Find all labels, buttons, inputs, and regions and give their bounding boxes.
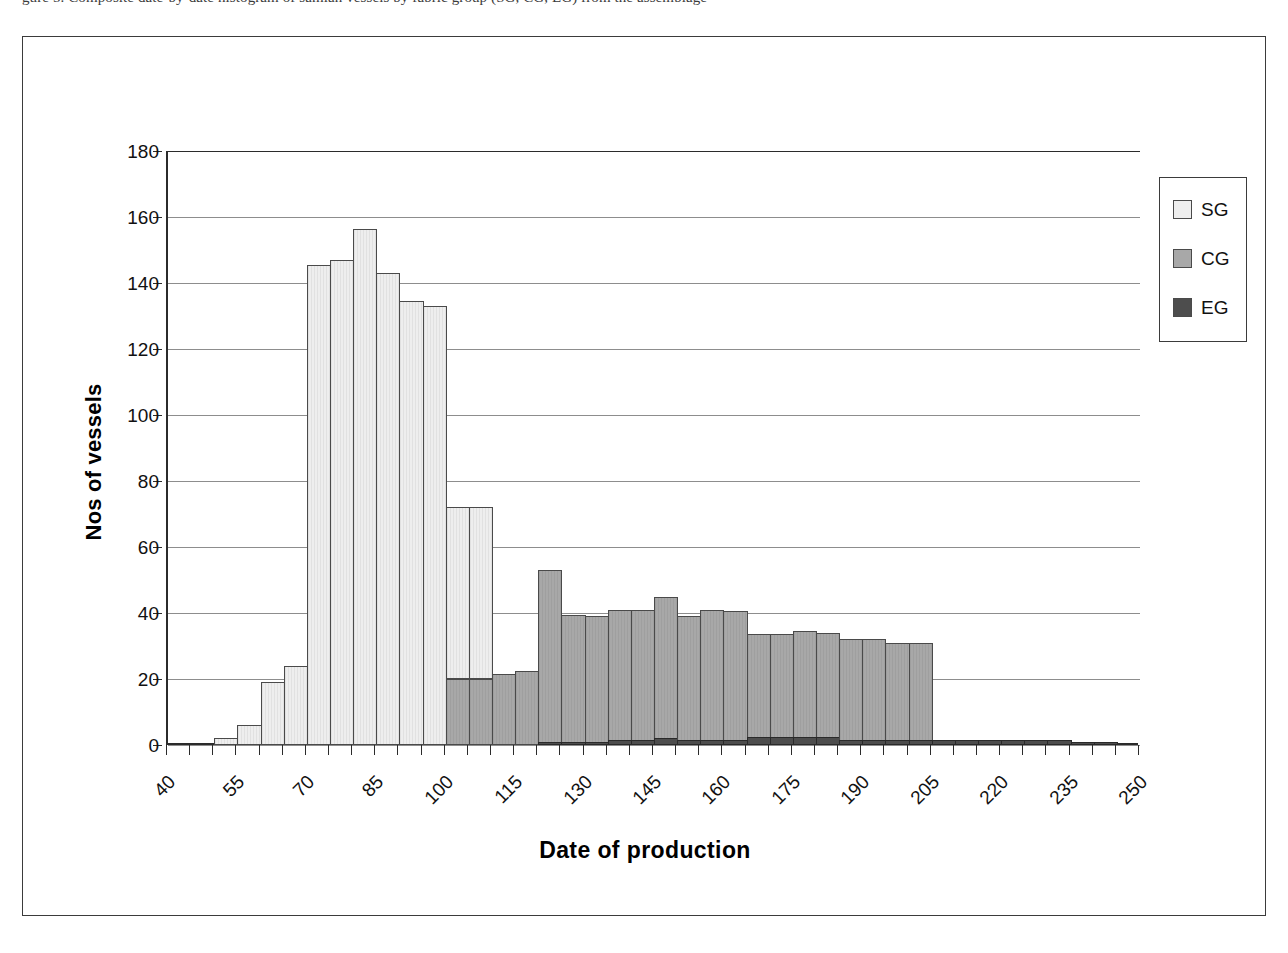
bar-cg bbox=[747, 634, 771, 745]
bar-sg bbox=[446, 507, 470, 679]
x-tick-label: 160 bbox=[677, 772, 734, 829]
bar-sg bbox=[353, 229, 377, 745]
x-tick-mark-125 bbox=[559, 745, 560, 755]
legend-item-cg[interactable]: CG bbox=[1173, 249, 1230, 268]
x-axis-ticks bbox=[166, 745, 1140, 757]
x-tick-label: 175 bbox=[746, 772, 803, 829]
x-tick-label: 115 bbox=[469, 772, 526, 829]
x-tick-label: 190 bbox=[816, 772, 873, 829]
y-tick-label: 160 bbox=[115, 208, 159, 227]
legend: SGCGEG bbox=[1159, 177, 1247, 342]
bar-sg bbox=[261, 682, 285, 745]
y-tick-label: 140 bbox=[115, 274, 159, 293]
x-tick-mark-150 bbox=[675, 745, 676, 755]
x-tick-mark-245 bbox=[1115, 745, 1116, 755]
x-tick-label: 40 bbox=[121, 772, 178, 829]
x-tick-mark-200 bbox=[907, 745, 908, 755]
y-tick-label: 120 bbox=[115, 340, 159, 359]
y-tick-label: 180 bbox=[115, 142, 159, 161]
x-tick-mark-135 bbox=[606, 745, 607, 755]
bar-sg bbox=[469, 507, 493, 679]
y-tick-label: 40 bbox=[115, 604, 159, 623]
x-tick-mark-50 bbox=[212, 745, 213, 755]
bar-cg bbox=[608, 610, 632, 745]
legend-label: CG bbox=[1201, 249, 1230, 268]
x-tick-mark-85 bbox=[374, 745, 375, 755]
x-tick-mark-215 bbox=[976, 745, 977, 755]
x-tick-mark-120 bbox=[536, 745, 537, 755]
x-tick-mark-210 bbox=[953, 745, 954, 755]
x-tick-mark-115 bbox=[513, 745, 514, 755]
x-tick-mark-130 bbox=[583, 745, 584, 755]
bar-cg bbox=[909, 643, 933, 745]
bar-sg bbox=[307, 265, 331, 745]
bar-cg bbox=[446, 679, 470, 745]
x-tick-mark-180 bbox=[814, 745, 815, 755]
x-tick-mark-190 bbox=[860, 745, 861, 755]
x-tick-mark-80 bbox=[351, 745, 352, 755]
bar-cg bbox=[793, 631, 817, 745]
bar-eg bbox=[770, 737, 794, 745]
x-tick-mark-225 bbox=[1022, 745, 1023, 755]
bar-sg bbox=[376, 273, 400, 745]
x-tick-mark-60 bbox=[259, 745, 260, 755]
legend-label: SG bbox=[1201, 200, 1228, 219]
x-tick-mark-65 bbox=[282, 745, 283, 755]
x-tick-mark-160 bbox=[721, 745, 722, 755]
x-tick-mark-105 bbox=[467, 745, 468, 755]
x-tick-mark-90 bbox=[397, 745, 398, 755]
x-tick-mark-240 bbox=[1092, 745, 1093, 755]
x-tick-label: 55 bbox=[191, 772, 248, 829]
bar-cg bbox=[723, 611, 747, 745]
bar-cg bbox=[885, 643, 909, 745]
x-tick-label: 100 bbox=[399, 772, 456, 829]
y-axis: 020406080100120140160180 bbox=[101, 151, 159, 751]
bar-cg bbox=[816, 633, 840, 745]
bar-cg bbox=[700, 610, 724, 745]
x-tick-mark-95 bbox=[421, 745, 422, 755]
x-tick-mark-70 bbox=[305, 745, 306, 755]
x-tick-mark-155 bbox=[698, 745, 699, 755]
x-tick-label: 235 bbox=[1024, 772, 1081, 829]
bar-sg bbox=[330, 260, 354, 745]
bar-sg bbox=[237, 725, 261, 745]
y-axis-title: Nos of vessels bbox=[81, 347, 107, 577]
legend-swatch-icon bbox=[1173, 249, 1192, 268]
x-tick-mark-205 bbox=[930, 745, 931, 755]
plot-area bbox=[166, 151, 1138, 745]
x-tick-label: 220 bbox=[955, 772, 1012, 829]
bar-cg bbox=[862, 639, 886, 745]
bar-eg bbox=[747, 737, 771, 745]
x-tick-mark-175 bbox=[791, 745, 792, 755]
bar-cg bbox=[492, 674, 516, 745]
bar-sg bbox=[284, 666, 308, 745]
bar-series-container bbox=[168, 151, 1140, 745]
x-tick-mark-250 bbox=[1138, 745, 1139, 755]
legend-swatch-icon bbox=[1173, 200, 1192, 219]
bar-sg bbox=[399, 301, 423, 745]
x-axis-title: Date of production bbox=[23, 837, 1267, 864]
x-tick-label: 205 bbox=[885, 772, 942, 829]
bar-cg bbox=[677, 616, 701, 745]
x-tick-mark-40 bbox=[166, 745, 167, 755]
legend-label: EG bbox=[1201, 298, 1228, 317]
x-tick-mark-220 bbox=[999, 745, 1000, 755]
x-tick-label: 70 bbox=[260, 772, 317, 829]
bar-cg bbox=[770, 634, 794, 745]
x-tick-mark-170 bbox=[768, 745, 769, 755]
x-tick-mark-140 bbox=[629, 745, 630, 755]
x-tick-mark-195 bbox=[883, 745, 884, 755]
legend-item-sg[interactable]: SG bbox=[1173, 200, 1228, 219]
y-tick-label: 20 bbox=[115, 670, 159, 689]
legend-swatch-icon bbox=[1173, 298, 1192, 317]
cropped-caption-sliver: gure 5. Composite date-by-date histogram… bbox=[0, 0, 1288, 14]
x-axis-tick-labels: 4055708510011513014516017519020522023525… bbox=[166, 759, 1146, 829]
bar-cg bbox=[654, 597, 678, 746]
x-tick-mark-230 bbox=[1045, 745, 1046, 755]
x-tick-mark-165 bbox=[745, 745, 746, 755]
bar-cg bbox=[469, 679, 493, 745]
bar-cg bbox=[839, 639, 863, 745]
legend-item-eg[interactable]: EG bbox=[1173, 298, 1228, 317]
x-tick-label: 85 bbox=[330, 772, 387, 829]
x-tick-mark-75 bbox=[328, 745, 329, 755]
